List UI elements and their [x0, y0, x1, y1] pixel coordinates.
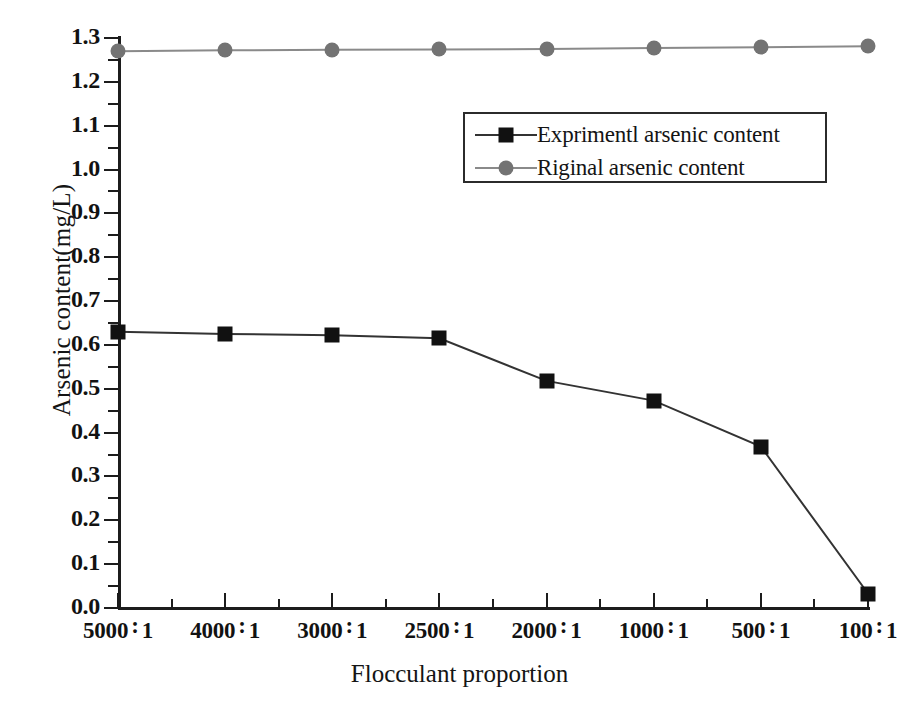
x-tick-label: 3000:1	[297, 618, 367, 644]
legend-swatch-square-icon	[475, 125, 537, 145]
y-tick-label: 0.1	[40, 549, 100, 576]
data-point-marker	[111, 44, 126, 59]
x-tick-label: 2500:1	[404, 618, 474, 644]
data-point-marker	[861, 586, 876, 601]
y-tick-minor	[108, 454, 119, 456]
data-point-marker	[432, 331, 447, 346]
y-tick-minor	[108, 410, 119, 412]
data-point-marker	[646, 41, 661, 56]
data-point-marker	[111, 324, 126, 339]
x-tick-minor	[599, 599, 601, 608]
y-tick-label: 0.3	[40, 461, 100, 488]
caption-remnant	[0, 694, 919, 712]
y-tick-major	[104, 344, 119, 346]
legend-entry-original: Riginal arsenic content	[465, 151, 825, 184]
y-tick-major	[104, 475, 119, 477]
x-tick-minor	[813, 599, 815, 608]
y-tick-label: 0.8	[40, 242, 100, 269]
x-tick-label: 4000:1	[190, 618, 260, 644]
y-tick-label: 0.7	[40, 286, 100, 313]
x-tick-label: 5000:1	[83, 618, 153, 644]
y-tick-label: 0.2	[40, 505, 100, 532]
data-point-marker	[646, 393, 661, 408]
y-tick-label: 0.5	[40, 374, 100, 401]
x-tick-label: 2000:1	[512, 618, 582, 644]
y-tick-major	[104, 125, 119, 127]
y-tick-major	[104, 212, 119, 214]
y-tick-label: 1.0	[40, 155, 100, 182]
data-point-marker	[539, 373, 554, 388]
legend-label-experimental: Exprimentl arsenic content	[537, 122, 780, 148]
y-tick-minor	[108, 59, 119, 61]
x-tick-label: 1000:1	[619, 618, 689, 644]
y-tick-major	[104, 37, 119, 39]
y-tick-label: 1.3	[40, 23, 100, 50]
x-tick-label: 500:1	[732, 618, 791, 644]
x-tick-label: 100:1	[839, 618, 898, 644]
y-tick-label: 1.1	[40, 111, 100, 138]
y-tick-major	[104, 432, 119, 434]
data-point-marker	[539, 41, 554, 56]
y-tick-label: 0.9	[40, 198, 100, 225]
x-tick-major	[546, 593, 548, 608]
x-tick-major	[760, 593, 762, 608]
y-tick-minor	[108, 103, 119, 105]
x-tick-major	[331, 593, 333, 608]
chart-legend: Exprimentl arsenic content Riginal arsen…	[463, 112, 827, 183]
x-axis-title: Flocculant proportion	[0, 660, 919, 688]
x-tick-major	[117, 593, 119, 608]
y-tick-minor	[108, 366, 119, 368]
x-tick-minor	[278, 599, 280, 608]
y-tick-minor	[108, 585, 119, 587]
y-tick-major	[104, 300, 119, 302]
y-tick-minor	[108, 278, 119, 280]
y-tick-major	[104, 256, 119, 258]
y-tick-minor	[108, 190, 119, 192]
y-tick-label: 0.6	[40, 330, 100, 357]
y-tick-minor	[108, 497, 119, 499]
legend-label-original: Riginal arsenic content	[537, 155, 744, 181]
data-point-marker	[861, 39, 876, 54]
legend-entry-experimental: Exprimentl arsenic content	[465, 118, 825, 151]
legend-swatch-circle-icon	[475, 158, 537, 178]
y-tick-minor	[108, 541, 119, 543]
x-tick-minor	[385, 599, 387, 608]
y-tick-major	[104, 169, 119, 171]
data-point-marker	[325, 42, 340, 57]
data-point-marker	[432, 42, 447, 57]
x-tick-minor	[706, 599, 708, 608]
y-tick-major	[104, 519, 119, 521]
y-tick-major	[104, 81, 119, 83]
data-point-marker	[218, 43, 233, 58]
y-tick-major	[104, 388, 119, 390]
chart-figure: Arsenic content(mg/L) 0.00.10.20.30.40.5…	[0, 0, 919, 715]
x-tick-major	[224, 593, 226, 608]
y-tick-major	[104, 563, 119, 565]
x-tick-major	[653, 593, 655, 608]
x-axis-line	[118, 607, 870, 610]
x-tick-minor	[492, 599, 494, 608]
data-point-marker	[218, 326, 233, 341]
x-tick-major	[438, 593, 440, 608]
y-tick-label: 1.2	[40, 67, 100, 94]
y-tick-label: 0.0	[40, 593, 100, 620]
data-point-marker	[753, 439, 768, 454]
y-tick-minor	[108, 234, 119, 236]
data-point-marker	[325, 328, 340, 343]
data-point-marker	[753, 40, 768, 55]
x-tick-minor	[171, 599, 173, 608]
y-tick-label: 0.4	[40, 418, 100, 445]
y-tick-minor	[108, 147, 119, 149]
